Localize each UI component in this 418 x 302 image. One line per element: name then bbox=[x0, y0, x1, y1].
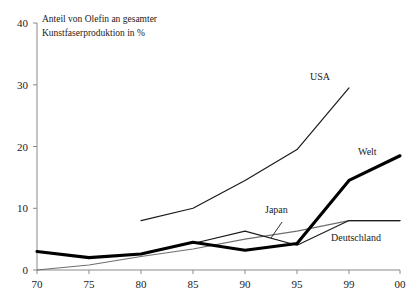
x-tick-label-70: 70 bbox=[32, 278, 44, 290]
y-tick-label-30: 30 bbox=[17, 79, 29, 91]
x-tick-label-90: 90 bbox=[240, 278, 252, 290]
chart-background bbox=[0, 0, 418, 302]
chart-title-line2: Kunstfaserproduktion in % bbox=[42, 28, 145, 38]
y-tick-label-0: 0 bbox=[23, 264, 29, 276]
x-tick-label-85: 85 bbox=[188, 278, 200, 290]
y-tick-label-10: 10 bbox=[17, 202, 29, 214]
series-label-usa: USA bbox=[310, 71, 331, 82]
y-tick-label-20: 20 bbox=[17, 141, 29, 153]
chart-container: Anteil von Olefin an gesamter Kunstfaser… bbox=[0, 0, 418, 302]
x-tick-label-00: 00 bbox=[395, 278, 407, 290]
y-tick-label-40: 40 bbox=[17, 17, 29, 29]
x-tick-label-99: 99 bbox=[344, 278, 356, 290]
x-tick-label-75: 75 bbox=[84, 278, 96, 290]
series-label-welt: Welt bbox=[358, 146, 377, 157]
line-chart: Anteil von Olefin an gesamter Kunstfaser… bbox=[0, 0, 418, 302]
series-label-deutschland: Deutschland bbox=[331, 232, 381, 243]
x-tick-label-95: 95 bbox=[292, 278, 304, 290]
chart-title-line1: Anteil von Olefin an gesamter bbox=[42, 14, 158, 24]
x-tick-label-80: 80 bbox=[136, 278, 148, 290]
series-label-japan: Japan bbox=[265, 204, 288, 215]
